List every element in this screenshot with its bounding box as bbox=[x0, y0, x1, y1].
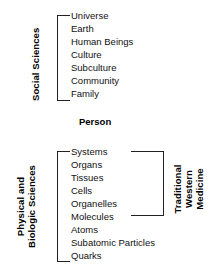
hierarchy-diagram: Social Sciences Universe Earth Human Bei… bbox=[0, 0, 216, 279]
list-item: Human Beings bbox=[71, 35, 133, 48]
list-item: Community bbox=[71, 74, 119, 87]
traditional-western-medicine-bracket bbox=[131, 151, 164, 216]
list-item: Tissues bbox=[71, 171, 103, 184]
list-item: Molecules bbox=[71, 210, 114, 223]
list-item: Systems bbox=[71, 145, 107, 158]
clipped-caption-remnant bbox=[0, 271, 216, 279]
list-item: Atoms bbox=[71, 223, 98, 236]
list-item: Universe bbox=[71, 9, 109, 22]
traditional-western-medicine-label-line-1: Traditional bbox=[172, 164, 183, 213]
traditional-western-medicine-label-line-3: Medicine bbox=[194, 168, 205, 209]
list-item: Subatomic Particles bbox=[71, 236, 155, 249]
list-item: Subculture bbox=[71, 61, 116, 74]
social-sciences-bracket bbox=[57, 15, 70, 101]
physical-biologic-sciences-label-line-1: Physical and bbox=[15, 177, 26, 236]
social-sciences-label: Social Sciences bbox=[30, 15, 41, 101]
center-person-label: Person bbox=[79, 116, 111, 127]
physical-biologic-sciences-label-line-2: Biologic Sciences bbox=[26, 165, 37, 248]
list-item: Organs bbox=[71, 158, 102, 171]
list-item: Organelles bbox=[71, 197, 117, 210]
list-item: Family bbox=[71, 87, 99, 100]
physical-biologic-sciences-bracket bbox=[57, 151, 70, 262]
list-item: Cells bbox=[71, 184, 92, 197]
list-item: Quarks bbox=[71, 249, 102, 262]
traditional-western-medicine-label: Traditional Western Medicine bbox=[172, 150, 205, 228]
list-item: Culture bbox=[71, 48, 102, 61]
physical-biologic-sciences-label: Physical and Biologic Sciences bbox=[15, 151, 37, 262]
list-item: Earth bbox=[71, 22, 94, 35]
traditional-western-medicine-label-line-2: Western bbox=[183, 170, 194, 208]
